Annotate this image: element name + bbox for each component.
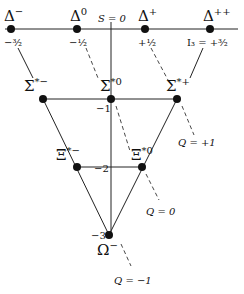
- delta-minus-label: Δ−: [4, 6, 23, 25]
- strangeness-minus2-label: −2: [94, 163, 109, 174]
- sigma-star-plus-dot: [173, 95, 181, 103]
- q-minus1-line-upper: [86, 48, 98, 78]
- strangeness-zero-label: S = 0: [98, 13, 127, 24]
- q-0-label: Q = 0: [146, 206, 176, 217]
- i3-plus-three-halves: I₃ = +³⁄₂: [187, 37, 228, 48]
- delta-plusplus-dot: [206, 25, 214, 33]
- decuplet-diagram: Δ− Δ0 Δ+ Δ++ S = 0 −³⁄₂ −¹⁄₂ +¹⁄₂ I₃ = +…: [0, 0, 244, 294]
- sigma-star-zero-dot: [107, 95, 115, 103]
- i3-minus-one-half: −¹⁄₂: [69, 37, 87, 48]
- sigma-star-minus-label: Σ*−: [24, 76, 48, 95]
- delta-zero-dot: [73, 25, 81, 33]
- i3-minus-three-halves: −³⁄₂: [4, 37, 22, 48]
- q-0-line-mid: [116, 106, 130, 151]
- q-minus1-line: [121, 244, 131, 266]
- delta-zero-label: Δ0: [70, 6, 87, 25]
- omega-minus-dot: [105, 231, 113, 239]
- strangeness-minus1-label: −1: [96, 103, 111, 114]
- xi-star-zero-label: Ξ*0: [131, 145, 153, 164]
- xi-star-minus-dot: [73, 163, 81, 171]
- left-edge-upper: [18, 48, 33, 78]
- xi-star-minus-label: Ξ*−: [56, 145, 80, 164]
- q-0-line: [146, 174, 159, 200]
- omega-minus-label: Ω−: [97, 240, 118, 259]
- xi-star-zero-dot: [138, 163, 146, 171]
- delta-plus-dot: [141, 25, 149, 33]
- i3-plus-one-half: +¹⁄₂: [138, 37, 156, 48]
- q-plus1-line: [182, 106, 194, 135]
- sigma-star-minus-dot: [39, 95, 47, 103]
- delta-plus-label: Δ+: [138, 6, 157, 25]
- right-edge-upper: [190, 48, 203, 78]
- delta-minus-dot: [7, 25, 15, 33]
- q-0-line-upper: [151, 48, 168, 80]
- q-minus1-label: Q = −1: [114, 275, 152, 286]
- strangeness-minus3-label: −3: [91, 230, 106, 241]
- delta-plusplus-label: Δ++: [203, 6, 231, 25]
- q-plus1-label: Q = +1: [178, 137, 216, 148]
- sigma-star-plus-label: Σ*+: [166, 76, 190, 95]
